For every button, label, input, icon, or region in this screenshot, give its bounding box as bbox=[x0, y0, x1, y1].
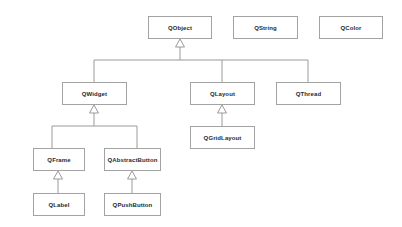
class-qobject: QObject bbox=[148, 16, 212, 39]
inheritance-arrow-icon bbox=[176, 39, 185, 47]
class-qcolor: QColor bbox=[319, 16, 383, 39]
class-qframe: QFrame bbox=[33, 148, 85, 171]
class-qthread: QThread bbox=[276, 82, 341, 105]
inheritance-arrow-icon bbox=[218, 105, 227, 113]
inheritance-arrow-icon bbox=[54, 171, 63, 179]
inheritance-arrow-icon bbox=[128, 171, 137, 179]
inheritance-arrow-icon bbox=[90, 105, 99, 113]
class-qgridlayout: QGridLayout bbox=[190, 126, 255, 149]
class-qlayout: QLayout bbox=[190, 82, 255, 105]
class-diagram: QObject QString QColor QWidget QLayout Q… bbox=[0, 0, 402, 227]
class-qstring: QString bbox=[233, 16, 298, 39]
class-qwidget: QWidget bbox=[62, 82, 127, 105]
class-qabstractbutton: QAbstractButton bbox=[104, 148, 161, 171]
class-qpushbutton: QPushButton bbox=[104, 193, 161, 216]
class-qlabel: QLabel bbox=[33, 193, 85, 216]
